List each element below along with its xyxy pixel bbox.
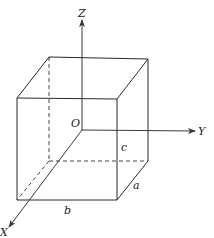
dimension-a-label: a (133, 179, 140, 192)
y-axis-label: Y (198, 125, 207, 138)
origin-label: O (71, 117, 80, 130)
z-axis-label: Z (77, 7, 86, 20)
dimension-c-label: c (121, 141, 127, 154)
y-axis-arrow (82, 130, 195, 131)
edge-top-right-depth (117, 59, 148, 99)
edge-front-top (17, 98, 117, 99)
x-axis-arrow (9, 130, 82, 227)
diagram-canvas: Z Y X O c a b (0, 0, 214, 238)
edge-top-left-depth (17, 57, 49, 98)
dimension-b-label: b (64, 204, 71, 217)
coordinate-axes (9, 20, 195, 227)
box-axes-diagram: Z Y X O c a b (0, 0, 214, 238)
x-axis-label: X (0, 226, 9, 238)
edge-back-top (49, 57, 148, 59)
